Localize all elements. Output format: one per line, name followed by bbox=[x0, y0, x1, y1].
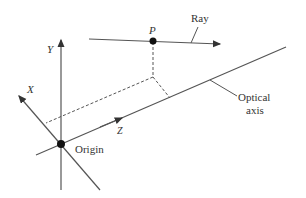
optical-axis-diagram: Y X Z P Ray Origin Optical axis bbox=[0, 0, 306, 198]
point-p-label: P bbox=[148, 24, 156, 36]
z-axis-label: Z bbox=[117, 125, 123, 136]
optical-leader bbox=[210, 80, 237, 96]
optical-axis-label-line1: Optical bbox=[238, 91, 270, 103]
origin-label: Origin bbox=[75, 143, 104, 155]
y-axis-label: Y bbox=[47, 43, 55, 55]
projection-dashed-to-axis bbox=[153, 77, 170, 98]
ray-label: Ray bbox=[191, 12, 209, 24]
x-axis-label: X bbox=[26, 83, 35, 95]
optical-axis-label-line2: axis bbox=[246, 104, 264, 116]
point-p bbox=[150, 38, 157, 45]
projection-dashed-to-xy bbox=[46, 77, 153, 123]
origin-point bbox=[57, 140, 65, 148]
ray-leader bbox=[191, 27, 198, 43]
